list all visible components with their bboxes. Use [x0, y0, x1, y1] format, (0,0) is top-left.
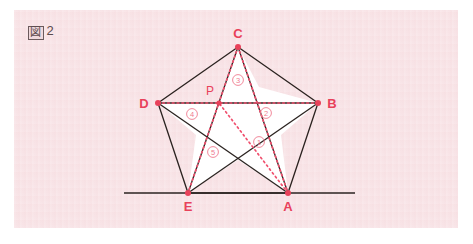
vertex-dot-d — [155, 100, 161, 106]
pentagram-diagram: ABCDEP 12345 — [0, 0, 473, 244]
vertex-label-e: E — [184, 199, 193, 214]
vertex-dot-a — [285, 190, 291, 196]
vertex-dot-c — [235, 44, 241, 50]
figure-container: 図2 ABCDEP 12345 — [0, 0, 473, 244]
region-number-2: 2 — [264, 109, 268, 118]
region-number-3: 3 — [236, 76, 240, 85]
vertex-dot-p — [216, 100, 221, 105]
vertex-label-d: D — [139, 96, 148, 111]
region-number-1: 1 — [257, 138, 261, 147]
vertex-label-b: B — [327, 96, 336, 111]
vertex-dot-b — [315, 100, 321, 106]
vertex-label-p: P — [206, 84, 214, 98]
vertex-label-c: C — [233, 26, 243, 41]
region-number-5: 5 — [211, 148, 215, 157]
region-number-4: 4 — [190, 110, 194, 119]
vertex-dot-e — [185, 190, 191, 196]
vertex-label-a: A — [283, 199, 293, 214]
